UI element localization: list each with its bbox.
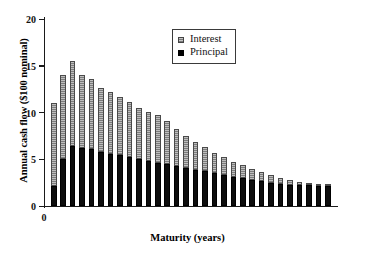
bar-column [183, 136, 189, 206]
bar-segment-interest [212, 153, 218, 173]
bar-segment-interest [51, 103, 57, 186]
bar-segment-interest [231, 162, 237, 177]
legend-item-interest: Interest [178, 33, 228, 46]
bar-segment-principal [89, 149, 95, 206]
bar-segment-principal [297, 185, 303, 206]
bar-segment-principal [268, 183, 274, 206]
bar-column [108, 92, 114, 206]
y-axis-tick-label: 20 [8, 14, 36, 25]
bar-segment-interest [259, 172, 265, 181]
bar-segment-principal [221, 175, 227, 206]
bar-segment-principal [108, 154, 114, 206]
bar-column [174, 129, 180, 206]
chart-legend: Interest Principal [172, 29, 236, 64]
bar-segment-principal [164, 164, 170, 206]
bar-segment-principal [155, 163, 161, 206]
bar-column [98, 88, 104, 206]
bar-column [306, 183, 312, 206]
bar-column [278, 178, 284, 206]
x-axis-title: Maturity (years) [0, 232, 375, 243]
bar-segment-principal [231, 177, 237, 206]
bar-column [60, 75, 66, 206]
bar-segment-interest [60, 75, 66, 159]
bar-column [136, 108, 142, 206]
bar-segment-interest [146, 112, 152, 162]
bar-column [164, 121, 170, 206]
bar-segment-interest [117, 97, 123, 155]
interest-swatch-icon [178, 37, 184, 43]
bar-segment-interest [193, 142, 199, 170]
bar-segment-interest [136, 108, 142, 159]
bar-segment-principal [98, 152, 104, 206]
y-axis-tick-label: 0 [8, 201, 36, 212]
bar-segment-interest [174, 129, 180, 166]
bar-segment-principal [202, 171, 208, 206]
bar-segment-principal [249, 180, 255, 206]
bar-segment-principal [127, 157, 133, 206]
bar-segment-interest [108, 92, 114, 154]
bar-segment-interest [183, 136, 189, 168]
bar-segment-principal [306, 185, 312, 206]
bar-segment-interest [240, 165, 246, 178]
bar-segment-principal [193, 170, 199, 206]
bar-segment-principal [316, 186, 322, 206]
bar-column [202, 147, 208, 206]
bar-segment-interest [249, 169, 255, 180]
legend-label-interest: Interest [190, 34, 222, 45]
bar-segment-interest [268, 175, 274, 183]
bar-column [249, 169, 255, 206]
bar-segment-principal [212, 173, 218, 206]
bar-column [155, 115, 161, 206]
bar-segment-principal [117, 155, 123, 206]
bar-column [231, 162, 237, 206]
bar-segment-principal [287, 185, 293, 207]
bar-column [89, 79, 95, 206]
bar-column [316, 184, 322, 206]
x-axis-tick-label-0: 0 [32, 212, 56, 223]
bar-segment-principal [70, 146, 76, 206]
chart-figure: Annual cash flow ($100 nominal) 05101520… [0, 0, 375, 258]
bar-segment-principal [278, 184, 284, 206]
bar-column [287, 180, 293, 206]
bar-segment-principal [240, 178, 246, 206]
y-axis-tick-label: 10 [8, 108, 36, 119]
bar-segment-interest [79, 75, 85, 147]
bar-column [70, 61, 76, 206]
bar-column [221, 157, 227, 206]
x-axis-line [44, 206, 338, 207]
bar-column [259, 172, 265, 206]
bar-segment-principal [259, 181, 265, 206]
y-axis-tick-label: 5 [8, 154, 36, 165]
bar-column [79, 75, 85, 206]
bar-segment-principal [146, 161, 152, 206]
legend-label-principal: Principal [190, 47, 228, 58]
bar-segment-principal [79, 148, 85, 206]
bar-column [212, 153, 218, 206]
bar-segment-interest [202, 147, 208, 171]
bar-column [297, 182, 303, 206]
bar-column [325, 184, 331, 206]
bar-segment-interest [89, 79, 95, 149]
bar-column [117, 97, 123, 206]
bar-segment-principal [136, 159, 142, 206]
bar-column [51, 103, 57, 206]
bar-segment-principal [51, 186, 57, 206]
bar-segment-interest [164, 121, 170, 164]
bar-column [268, 175, 274, 206]
bar-column [193, 142, 199, 206]
y-axis-tick-label: 15 [8, 61, 36, 72]
bar-segment-interest [127, 102, 133, 157]
principal-swatch-icon [178, 50, 184, 56]
bar-segment-principal [325, 186, 331, 206]
legend-item-principal: Principal [178, 46, 228, 59]
bar-segment-principal [183, 168, 189, 206]
bar-segment-principal [60, 159, 66, 206]
bar-segment-principal [174, 166, 180, 206]
bar-segment-interest [221, 157, 227, 175]
bar-column [240, 165, 246, 206]
bar-segment-interest [98, 88, 104, 152]
bar-column [127, 102, 133, 206]
bar-column [146, 112, 152, 206]
bar-segment-interest [70, 61, 76, 146]
bar-segment-interest [155, 115, 161, 162]
